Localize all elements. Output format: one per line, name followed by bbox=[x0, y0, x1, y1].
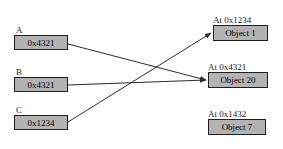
pointer-aliasing-diagram: A 0x4321 B 0x4321 C 0x1234 At 0x1234 Obj… bbox=[0, 0, 283, 149]
object-7-address: At 0x1432 bbox=[208, 109, 246, 119]
pointer-b-name: B bbox=[16, 67, 22, 77]
edge-b-to-object-20 bbox=[68, 80, 206, 85]
object-1-address: At 0x1234 bbox=[213, 15, 251, 25]
object-7-box[interactable]: Object 7 bbox=[208, 119, 266, 135]
object-20-address: At 0x4321 bbox=[208, 62, 246, 72]
pointer-c-value-box[interactable]: 0x1234 bbox=[14, 115, 68, 130]
object-20-box[interactable]: Object 20 bbox=[208, 72, 268, 88]
pointer-a-name: A bbox=[16, 25, 23, 35]
object-1-box[interactable]: Object 1 bbox=[213, 25, 268, 41]
pointer-b-value-box[interactable]: 0x4321 bbox=[14, 77, 68, 92]
edge-c-to-object-1 bbox=[68, 33, 211, 122]
pointer-c-name: C bbox=[16, 105, 22, 115]
pointer-a-value-box[interactable]: 0x4321 bbox=[14, 35, 68, 50]
